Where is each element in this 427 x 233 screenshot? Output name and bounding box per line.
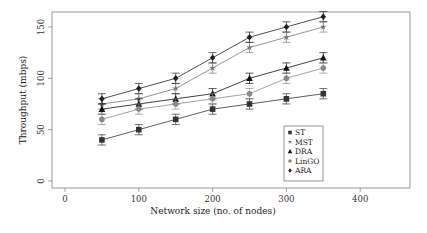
- legend-label: DRA: [295, 147, 313, 156]
- y-axis: 050100150: [36, 19, 52, 184]
- data-point: [135, 125, 143, 135]
- data-point: [246, 42, 254, 52]
- data-point: [246, 32, 254, 42]
- y-axis-label: Throughput (mbps): [18, 56, 28, 145]
- data-point: [282, 94, 290, 104]
- x-tick-label: 400: [352, 194, 368, 204]
- x-axis-label: Network size (no. of nodes): [150, 206, 275, 216]
- data-point: [319, 22, 327, 32]
- y-tick-label: 0: [36, 178, 46, 183]
- data-series: [98, 12, 327, 146]
- data-point: [319, 89, 327, 99]
- x-axis: 0100200300400: [62, 188, 368, 204]
- legend: STMSTDRALinGOARA: [284, 126, 323, 181]
- x-tick-label: 200: [204, 194, 220, 204]
- data-point: [282, 32, 290, 42]
- data-point: [282, 22, 290, 32]
- x-tick-label: 300: [278, 194, 294, 204]
- data-point: [172, 73, 180, 83]
- circle-marker-icon: [288, 159, 292, 163]
- data-point: [319, 53, 327, 63]
- data-point: [172, 83, 180, 93]
- plot-frame: [52, 12, 410, 188]
- y-tick-label: 150: [36, 19, 46, 35]
- legend-label: MST: [295, 138, 313, 147]
- square-marker-icon: [288, 131, 292, 135]
- throughput-chart: 050100150 0100200300400 Throughput (mbps…: [0, 0, 427, 233]
- data-point: [135, 83, 143, 93]
- data-point: [98, 135, 106, 145]
- y-tick-label: 100: [36, 70, 46, 86]
- legend-label: ARA: [294, 166, 312, 175]
- data-point: [246, 73, 254, 83]
- data-point: [319, 12, 327, 22]
- data-point: [282, 63, 290, 73]
- data-point: [209, 63, 217, 73]
- x-tick-label: 100: [131, 194, 147, 204]
- data-point: [172, 114, 180, 124]
- data-point: [209, 53, 217, 63]
- data-point: [246, 99, 254, 109]
- legend-label: LinGO: [295, 157, 319, 166]
- data-point: [209, 104, 217, 114]
- x-tick-label: 0: [62, 194, 67, 204]
- data-point: [319, 63, 327, 73]
- y-tick-label: 50: [36, 124, 46, 135]
- data-point: [98, 114, 106, 124]
- legend-label: ST: [295, 128, 305, 137]
- data-point: [282, 73, 290, 83]
